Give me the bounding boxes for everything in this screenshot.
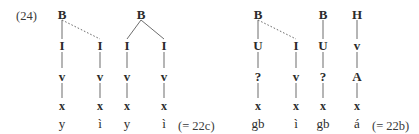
tier1-node-col-7: U <box>318 39 327 52</box>
segment-node-col-8: á <box>354 117 360 130</box>
association-line-group-right-1 <box>258 20 296 39</box>
tier2-node-col-2: v <box>97 70 104 83</box>
tier1-node-col-4: I <box>161 39 166 52</box>
segment-node-col-7: gb <box>317 117 330 130</box>
tier-link-1-col-4 <box>164 52 165 68</box>
tier1-node-col-1: I <box>59 39 64 52</box>
tier1-node-col-2: I <box>97 39 102 52</box>
example-number-label: (24) <box>16 10 37 23</box>
tier2-node-col-4: v <box>161 70 168 83</box>
tier3-node-col-2: x <box>97 100 103 112</box>
tier1-node-col-5: U <box>253 39 262 52</box>
tier3-node-col-6: x <box>293 100 299 112</box>
tier1-node-col-8: v <box>354 39 361 52</box>
segment-node-col-5: gb <box>252 117 265 130</box>
association-line-group-left-3 <box>141 20 164 39</box>
tier-link-2-col-7 <box>323 83 324 98</box>
tier3-node-col-4: x <box>161 100 167 112</box>
root-node-group-right-2: H <box>352 8 362 21</box>
tier-link-2-col-3 <box>127 83 128 98</box>
tier-link-2-col-5 <box>258 83 259 98</box>
tier2-node-col-6: v <box>293 70 300 83</box>
tier-link-2-col-6 <box>296 83 297 98</box>
tier2-node-col-7: ? <box>320 70 327 83</box>
tier-link-1-col-6 <box>296 52 297 68</box>
tier2-node-col-3: v <box>124 70 131 83</box>
tier2-node-col-5: ? <box>255 70 262 83</box>
tier3-node-col-5: x <box>255 100 261 112</box>
tier2-node-col-8: A <box>352 70 361 83</box>
segment-node-col-6: ì <box>294 117 298 130</box>
tier3-node-col-3: x <box>124 100 130 112</box>
tier-link-2-col-1 <box>62 83 63 98</box>
tier3-node-col-8: x <box>354 100 360 112</box>
tier-link-2-col-2 <box>100 83 101 98</box>
figure-canvas: (24) BBIvxyIvxìIvxyIvxìBBHU?xgbIvxìU?xgb… <box>0 0 419 134</box>
segment-node-col-1: y <box>59 117 66 130</box>
association-line-group-left-2 <box>127 20 141 39</box>
tier-link-1-col-5 <box>258 52 259 68</box>
tier1-node-col-6: I <box>293 39 298 52</box>
root-node-group-left-1: B <box>137 8 146 21</box>
cross-reference-right: (= 22b) <box>372 120 409 133</box>
root-node-group-right-1: B <box>319 8 328 21</box>
tier3-node-col-7: x <box>320 100 326 112</box>
tier-link-1-col-8 <box>357 52 358 68</box>
tier-link-2-col-8 <box>357 83 358 98</box>
segment-node-col-3: y <box>124 117 131 130</box>
tier-link-1-col-1 <box>62 52 63 68</box>
tier2-node-col-1: v <box>59 70 66 83</box>
root-node-group-left-0: B <box>58 8 67 21</box>
tier1-node-col-3: I <box>124 39 129 52</box>
tier-link-2-col-4 <box>164 83 165 98</box>
segment-node-col-2: ì <box>98 117 102 130</box>
segment-node-col-4: ì <box>162 117 166 130</box>
tier-link-1-col-2 <box>100 52 101 68</box>
tier3-node-col-1: x <box>59 100 65 112</box>
association-line-group-left-1 <box>62 20 100 39</box>
tier-link-1-col-7 <box>323 52 324 68</box>
root-node-group-right-0: B <box>254 8 263 21</box>
cross-reference-left: (= 22c) <box>178 120 215 133</box>
tier-link-1-col-3 <box>127 52 128 68</box>
